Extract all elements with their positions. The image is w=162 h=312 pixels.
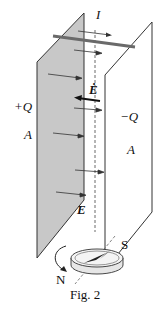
left-charge-label: +Q <box>14 100 32 113</box>
right-charge-label: −Q <box>120 110 138 123</box>
left-area-label: A <box>24 128 32 141</box>
current-arrow-icon <box>106 33 112 38</box>
rotation-arrow-icon <box>55 246 66 270</box>
field-label: E <box>77 203 86 216</box>
north-label: N <box>56 273 65 286</box>
capacitor-diagram <box>0 0 162 312</box>
compass-icon <box>71 249 123 274</box>
edot-label: Ė <box>89 83 98 96</box>
south-label: S <box>121 238 128 251</box>
right-area-label: A <box>127 143 135 156</box>
figure-caption: Fig. 2 <box>70 288 100 301</box>
current-label: I <box>96 8 100 21</box>
